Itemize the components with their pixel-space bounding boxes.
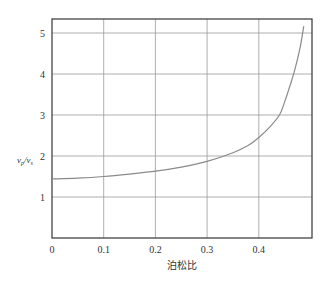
x-axis-ticks: 00.10.20.30.4 [50,244,266,255]
plot-frame [52,19,312,238]
x-tick-label: 0.4 [253,244,266,255]
y-axis-label: vp/vs [17,155,34,166]
y-tick-label: 3 [40,110,45,121]
y-tick-label: 2 [40,151,45,162]
y-axis-ticks: 12345 [40,28,45,203]
x-tick-label: 0.3 [201,244,214,255]
x-axis-label: 泊松比 [167,259,197,271]
y-tick-label: 5 [40,28,45,39]
x-tick-label: 0 [50,244,55,255]
x-tick-label: 0.1 [97,244,110,255]
chart: 00.10.20.30.4 12345 vp/vs 泊松比 [0,0,325,281]
x-tick-label: 0.2 [149,244,162,255]
grid-lines [52,19,312,238]
y-tick-label: 4 [40,69,45,80]
y-tick-label: 1 [40,192,45,203]
